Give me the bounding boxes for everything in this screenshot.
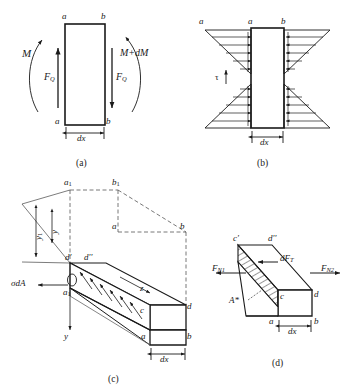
- label-moment-left: M: [22, 48, 31, 59]
- label-tau: τ: [215, 73, 219, 82]
- label-c-near-d: d: [187, 302, 192, 311]
- label-c-b1: b1: [112, 178, 120, 188]
- label-d-dx: dx: [288, 327, 297, 336]
- label-c-face-left: a1: [63, 288, 71, 298]
- label-a-corner-top-left: a: [62, 12, 67, 21]
- label-moment-right: M+dM: [120, 48, 148, 58]
- label-c-face-top-left: d': [65, 253, 71, 262]
- panel-d-element: [216, 245, 340, 332]
- panel-b-element: [251, 28, 284, 128]
- label-shear-left: FQ: [44, 72, 55, 83]
- label-b-outer-left: a: [199, 17, 204, 26]
- caption-c: (c): [108, 374, 119, 384]
- panel-c-beam: [22, 190, 186, 360]
- label-b-corner-top-right: b: [281, 17, 286, 26]
- label-c-axis-y: y: [64, 332, 68, 341]
- label-c-a1: a1: [64, 178, 72, 188]
- label-c-near-b: b: [187, 332, 192, 341]
- label-a-corner-top-right: b: [101, 12, 106, 21]
- caption-a: (a): [76, 158, 87, 168]
- panel-a-graphics: [0, 0, 354, 391]
- label-c-axis-z: z: [140, 284, 144, 293]
- shear-distribution-upper-right: [284, 30, 330, 74]
- panel-a-element: [65, 24, 105, 125]
- label-d-near-c: c: [280, 292, 284, 301]
- label-shear-right: FQ: [116, 72, 127, 83]
- label-c-mid-b: b: [180, 222, 185, 231]
- label-c-mid-a: a: [112, 222, 117, 231]
- shear-distribution-lower-right: [284, 84, 330, 128]
- label-c-y1: y1: [34, 233, 44, 240]
- label-c-near-c: c: [140, 306, 144, 315]
- label-d-top-left: c': [233, 234, 239, 243]
- shear-distribution-lower-left: [205, 84, 251, 128]
- label-d-near-d: d: [314, 290, 319, 299]
- label-c-y: y: [50, 230, 59, 234]
- label-b-dx: dx: [260, 138, 269, 147]
- caption-d: (d): [272, 358, 283, 368]
- label-a-corner-bottom-right: b: [106, 117, 111, 126]
- label-fn2: FN2: [321, 264, 334, 274]
- label-d-near-a: a: [269, 317, 274, 326]
- label-c-near-a: a: [141, 332, 146, 341]
- label-area-astar: A*: [229, 296, 239, 305]
- label-d-top-right: d'': [268, 234, 276, 243]
- label-d-near-b: b: [314, 317, 319, 326]
- label-b-corner-top-left: a: [248, 17, 253, 26]
- label-sigma-da: σdA: [11, 279, 25, 288]
- label-c-dx: dx: [160, 355, 169, 364]
- label-a-corner-bottom-left: a: [55, 117, 60, 126]
- label-dft: dFT: [280, 254, 294, 264]
- moment-arc-left: [29, 40, 42, 112]
- label-fn1: FN1: [212, 264, 225, 274]
- figure-panel-a: [0, 0, 354, 391]
- caption-b: (b): [257, 158, 268, 168]
- label-c-face-top-right: d'': [84, 253, 92, 262]
- shear-distribution-upper-left: [205, 30, 251, 74]
- label-a-dx: dx: [77, 134, 86, 143]
